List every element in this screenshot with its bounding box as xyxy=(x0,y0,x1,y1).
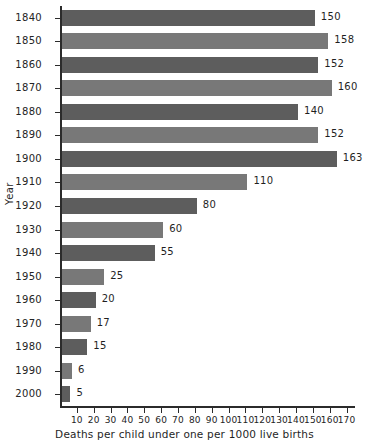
x-tick-mark xyxy=(245,408,246,413)
x-tick-mark xyxy=(178,408,179,413)
bar-1880 xyxy=(62,104,298,120)
x-tick-mark xyxy=(195,408,196,413)
y-tick-mark xyxy=(55,347,60,348)
y-tick-mark xyxy=(55,65,60,66)
y-tick-mark xyxy=(55,135,60,136)
x-tick-mark xyxy=(144,408,145,413)
y-tick-label-1950: 1950 xyxy=(0,271,42,282)
y-tick-label-1860: 1860 xyxy=(0,59,42,70)
y-tick-mark xyxy=(55,324,60,325)
bar-value-1990: 6 xyxy=(78,364,85,375)
y-tick-label-1850: 1850 xyxy=(0,35,42,46)
x-tick-mark xyxy=(347,408,348,413)
y-tick-mark xyxy=(55,230,60,231)
bar-1940 xyxy=(62,245,155,261)
bar-value-1940: 55 xyxy=(161,246,174,257)
y-tick-label-1870: 1870 xyxy=(0,82,42,93)
bar-1850 xyxy=(62,33,328,49)
bar-value-1910: 110 xyxy=(253,175,273,186)
y-tick-label-1890: 1890 xyxy=(0,129,42,140)
bar-1910 xyxy=(62,174,247,190)
y-tick-mark xyxy=(55,206,60,207)
x-tick-mark xyxy=(212,408,213,413)
bar-1960 xyxy=(62,292,96,308)
bar-1840 xyxy=(62,10,315,26)
bar-value-1950: 25 xyxy=(110,270,123,281)
bar-1870 xyxy=(62,80,332,96)
bar-chart: Year 15018401581850152186016018701401880… xyxy=(0,0,369,447)
y-tick-label-1940: 1940 xyxy=(0,247,42,258)
bar-value-1970: 17 xyxy=(97,317,110,328)
y-tick-mark xyxy=(55,277,60,278)
y-tick-label-1920: 1920 xyxy=(0,200,42,211)
bar-1990 xyxy=(62,363,72,379)
bar-value-2000: 5 xyxy=(76,387,83,398)
y-tick-mark xyxy=(55,41,60,42)
y-tick-mark xyxy=(55,182,60,183)
bar-value-1880: 140 xyxy=(304,105,324,116)
y-tick-label-1960: 1960 xyxy=(0,294,42,305)
bar-value-1890: 152 xyxy=(324,128,344,139)
bar-value-1980: 15 xyxy=(93,340,106,351)
y-tick-mark xyxy=(55,88,60,89)
y-tick-mark xyxy=(55,371,60,372)
bar-2000 xyxy=(62,386,70,402)
plot-area: 1501840158185015218601601870140188015218… xyxy=(60,6,355,406)
bar-1900 xyxy=(62,151,337,167)
bar-value-1900: 163 xyxy=(343,152,363,163)
x-tick-label-170: 170 xyxy=(335,415,359,425)
x-axis-line xyxy=(60,406,355,408)
bar-1950 xyxy=(62,269,104,285)
x-tick-mark xyxy=(111,408,112,413)
y-tick-label-1880: 1880 xyxy=(0,106,42,117)
x-tick-mark xyxy=(330,408,331,413)
y-tick-label-1840: 1840 xyxy=(0,12,42,23)
bar-value-1960: 20 xyxy=(102,293,115,304)
x-axis-label: Deaths per child under one per 1000 live… xyxy=(0,428,369,440)
y-tick-label-1980: 1980 xyxy=(0,341,42,352)
y-tick-mark xyxy=(55,253,60,254)
bar-value-1920: 80 xyxy=(203,199,216,210)
y-tick-label-1930: 1930 xyxy=(0,224,42,235)
bar-value-1870: 160 xyxy=(338,81,358,92)
bar-value-1850: 158 xyxy=(334,34,354,45)
x-tick-mark xyxy=(127,408,128,413)
bar-value-1930: 60 xyxy=(169,223,182,234)
y-tick-mark xyxy=(55,159,60,160)
y-tick-mark xyxy=(55,18,60,19)
y-tick-label-2000: 2000 xyxy=(0,388,42,399)
x-tick-mark xyxy=(262,408,263,413)
bar-1860 xyxy=(62,57,318,73)
bar-1920 xyxy=(62,198,197,214)
y-tick-label-1910: 1910 xyxy=(0,176,42,187)
y-tick-label-1970: 1970 xyxy=(0,318,42,329)
bar-1980 xyxy=(62,339,87,355)
x-tick-mark xyxy=(94,408,95,413)
bar-1890 xyxy=(62,127,318,143)
x-tick-mark xyxy=(279,408,280,413)
y-tick-label-1990: 1990 xyxy=(0,365,42,376)
y-tick-mark xyxy=(55,300,60,301)
x-tick-mark xyxy=(296,408,297,413)
bar-value-1840: 150 xyxy=(321,11,341,22)
bar-value-1860: 152 xyxy=(324,58,344,69)
bar-1970 xyxy=(62,316,91,332)
x-tick-mark xyxy=(161,408,162,413)
y-tick-mark xyxy=(55,394,60,395)
bar-1930 xyxy=(62,222,163,238)
x-tick-mark xyxy=(77,408,78,413)
y-tick-mark xyxy=(55,112,60,113)
y-tick-label-1900: 1900 xyxy=(0,153,42,164)
x-tick-mark xyxy=(229,408,230,413)
x-tick-mark xyxy=(313,408,314,413)
